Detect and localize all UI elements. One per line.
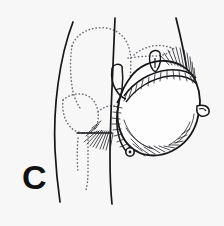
nipple-areola-marker bbox=[126, 148, 134, 156]
axillary-hatching bbox=[84, 121, 113, 150]
panel-label: C bbox=[22, 160, 47, 194]
lateral-tab-flap bbox=[197, 105, 209, 116]
figure-panel: C bbox=[0, 0, 224, 226]
rib-cage-outline bbox=[63, 94, 125, 190]
